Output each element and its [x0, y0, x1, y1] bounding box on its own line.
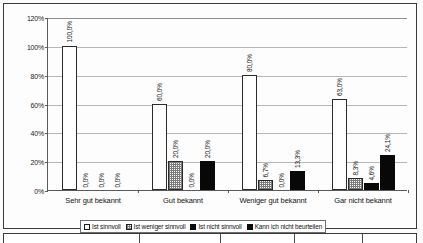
table-column-divider: [294, 234, 295, 243]
bar-value-label: 0,0%: [188, 173, 195, 187]
y-axis-tick-label: 100%: [6, 43, 48, 50]
legend-item[interactable]: Ist weniger sinnvoll: [126, 223, 186, 230]
y-axis-tick-label: 120%: [6, 15, 48, 22]
bar-group: 80,0%6,7%0,0%13,3%Weniger gut bekannt: [228, 18, 318, 190]
bar-group: 60,0%20,0%0,0%20,0%Gut bekannt: [138, 18, 228, 190]
bar-slot: 100,0%: [62, 18, 77, 190]
legend-swatch-icon: [247, 224, 253, 230]
y-axis-tick-label: 20%: [6, 159, 48, 166]
bar-slot: 4,6%: [364, 18, 379, 190]
legend-swatch-icon: [190, 224, 196, 230]
table-column-divider: [139, 234, 140, 243]
bar-slot: 0,0%: [78, 18, 93, 190]
bar-group-bars: 63,0%8,3%4,6%24,1%: [318, 18, 408, 190]
bar-slot: 0,0%: [274, 18, 289, 190]
bar[interactable]: [152, 104, 167, 191]
bar-value-label: 0,0%: [98, 173, 105, 187]
bottom-table-strip: [3, 233, 417, 243]
x-axis-tick-mark: [228, 190, 229, 193]
y-axis-tick-label: 80%: [6, 72, 48, 79]
bar-slot: 20,0%: [200, 18, 215, 190]
x-axis-tick-mark: [138, 190, 139, 193]
bar-value-label: 100,0%: [66, 21, 73, 42]
bar-group: 100,0%0,0%0,0%0,0%Sehr gut bekannt: [48, 18, 138, 190]
bar-slot: 80,0%: [242, 18, 257, 190]
bar-value-label: 0,0%: [114, 173, 121, 187]
bar-value-label: 24,1%: [384, 134, 391, 152]
table-column-divider: [362, 234, 363, 243]
legend-item-label: Kann ich nicht beurteilen: [255, 223, 322, 230]
bar-group-bars: 100,0%0,0%0,0%0,0%: [48, 18, 138, 190]
x-axis-category-label: Sehr gut bekannt: [48, 196, 138, 205]
bar-slot: 63,0%: [332, 18, 347, 190]
x-axis-category-label: Gut bekannt: [138, 196, 228, 205]
bar-slot: 13,3%: [290, 18, 305, 190]
y-axis-tick-label: 60%: [6, 101, 48, 108]
plot-area: 0%20%40%60%80%100%120%100,0%0,0%0,0%0,0%…: [47, 18, 407, 191]
legend-item[interactable]: Ist nicht sinnvoll: [190, 223, 241, 230]
legend-item-label: Ist nicht sinnvoll: [198, 223, 241, 230]
bar-value-label: 80,0%: [246, 54, 253, 72]
bar[interactable]: [332, 99, 347, 190]
bar[interactable]: [258, 180, 273, 190]
bar[interactable]: [348, 178, 363, 190]
bar-value-label: 60,0%: [156, 83, 163, 101]
bar[interactable]: [290, 171, 305, 190]
scanned-chart-page: 0%20%40%60%80%100%120%100,0%0,0%0,0%0,0%…: [0, 0, 423, 243]
legend-item[interactable]: Kann ich nicht beurteilen: [247, 223, 322, 230]
bar[interactable]: [200, 161, 215, 190]
bar[interactable]: [380, 155, 395, 190]
bar-value-label: 20,0%: [172, 140, 179, 158]
bar-value-label: 4,6%: [368, 166, 375, 180]
y-axis-tick-label: 40%: [6, 130, 48, 137]
legend-item-label: Ist weniger sinnvoll: [134, 223, 186, 230]
bar-group-bars: 80,0%6,7%0,0%13,3%: [228, 18, 318, 190]
bar-value-label: 6,7%: [262, 163, 269, 177]
bar-slot: 60,0%: [152, 18, 167, 190]
bar[interactable]: [364, 183, 379, 190]
bar-value-label: 63,0%: [336, 78, 343, 96]
bar-value-label: 0,0%: [278, 173, 285, 187]
y-axis-tick-label: 0%: [6, 188, 48, 195]
x-axis-category-label: Gar nicht bekannt: [318, 196, 408, 205]
bar-slot: 0,0%: [184, 18, 199, 190]
bar-slot: 20,0%: [168, 18, 183, 190]
bar-value-label: 8,3%: [352, 161, 359, 175]
bar[interactable]: [168, 161, 183, 190]
x-axis-tick-mark: [408, 190, 409, 193]
bar-slot: 6,7%: [258, 18, 273, 190]
table-column-divider: [220, 234, 221, 243]
bar-value-label: 20,0%: [204, 140, 211, 158]
legend-swatch-icon: [126, 224, 132, 230]
legend-swatch-icon: [84, 224, 90, 230]
bar-value-label: 13,3%: [294, 150, 301, 168]
legend-item-label: Ist sinnvoll: [92, 223, 121, 230]
bar-slot: 8,3%: [348, 18, 363, 190]
bar-slot: 0,0%: [110, 18, 125, 190]
bar-slot: 24,1%: [380, 18, 395, 190]
chart-legend: Ist sinnvollIst weniger sinnvollIst nich…: [80, 220, 326, 233]
x-axis-tick-mark: [318, 190, 319, 193]
legend-item[interactable]: Ist sinnvoll: [84, 223, 121, 230]
bar-slot: 0,0%: [94, 18, 109, 190]
bar[interactable]: [62, 46, 77, 190]
bar[interactable]: [242, 75, 257, 190]
x-axis-category-label: Weniger gut bekannt: [228, 196, 318, 205]
bar-group-bars: 60,0%20,0%0,0%20,0%: [138, 18, 228, 190]
bar-value-label: 0,0%: [82, 173, 89, 187]
chart-frame: 0%20%40%60%80%100%120%100,0%0,0%0,0%0,0%…: [3, 3, 417, 229]
bar-group: 63,0%8,3%4,6%24,1%Gar nicht bekannt: [318, 18, 408, 190]
